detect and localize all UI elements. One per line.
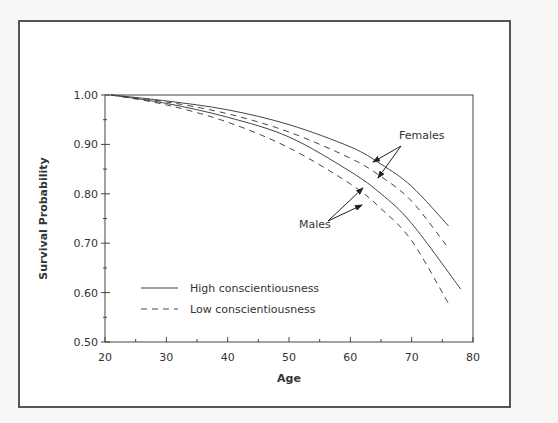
x-tick-label: 60: [343, 351, 357, 364]
series-line: [111, 95, 448, 226]
males-annotation: Males: [299, 218, 331, 231]
legend-label: Low conscientiousness: [190, 303, 316, 316]
y-axis-label: Survival Probability: [37, 157, 50, 279]
series-line: [111, 95, 448, 248]
y-tick-label: 0.70: [74, 237, 99, 250]
x-tick-label: 70: [405, 351, 419, 364]
series-line: [111, 95, 448, 303]
x-axis-label: Age: [277, 372, 301, 385]
x-tick-label: 50: [282, 351, 296, 364]
y-tick-label: 0.60: [74, 287, 99, 300]
legend-label: High conscientiousness: [190, 282, 319, 295]
x-tick-label: 30: [159, 351, 173, 364]
y-tick-label: 1.00: [74, 89, 99, 102]
x-tick-label: 80: [466, 351, 480, 364]
females-annotation: Females: [399, 129, 445, 142]
x-tick-label: 20: [98, 351, 112, 364]
y-tick-label: 0.90: [74, 138, 99, 151]
y-tick-label: 0.80: [74, 188, 99, 201]
survival-chart: 203040506070800.500.600.700.800.901.00Ag…: [0, 0, 558, 423]
y-tick-label: 0.50: [74, 336, 99, 349]
x-tick-label: 40: [221, 351, 235, 364]
